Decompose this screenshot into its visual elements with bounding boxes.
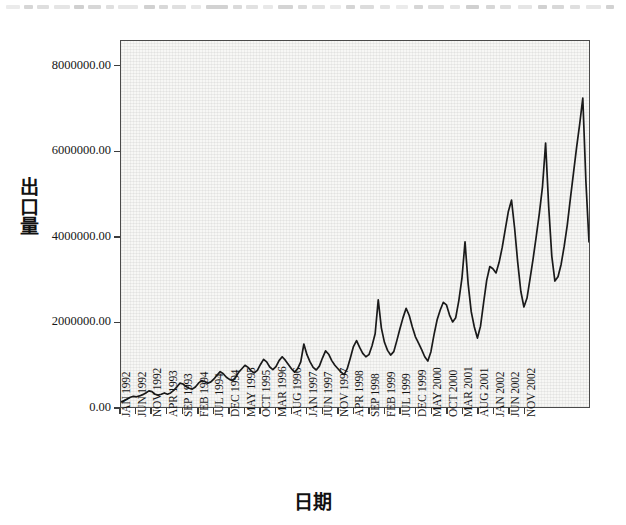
x-tick-label: JUL 1999 xyxy=(400,373,412,417)
y-tick-label: 6000000.00 xyxy=(52,143,111,158)
clipped-text-fragment xyxy=(466,5,479,9)
clipped-text-fragment xyxy=(606,5,614,9)
scan-artifact-strip xyxy=(0,0,626,10)
clipped-text-fragment xyxy=(6,5,20,9)
x-tick-label: MAR 2001 xyxy=(462,367,474,417)
x-tick-label: JUN 2002 xyxy=(509,372,521,417)
x-tick-label: OCT 2000 xyxy=(447,370,459,417)
clipped-text-fragment xyxy=(380,5,390,9)
clipped-text-fragment xyxy=(312,5,325,9)
clipped-text-fragment xyxy=(330,5,341,9)
x-tick-label: JAN 1997 xyxy=(307,372,319,417)
x-tick-label: JAN 1992 xyxy=(120,372,132,417)
plot-area xyxy=(120,40,590,408)
clipped-text-fragment xyxy=(74,5,84,9)
x-tick-label: FEB 1999 xyxy=(385,372,397,417)
y-tick-label: 2000000.00 xyxy=(52,314,111,329)
clipped-text-fragment xyxy=(37,5,49,9)
x-tick-label: MAY 1995 xyxy=(245,367,257,417)
clipped-text-fragment xyxy=(88,5,101,9)
clipped-text-fragment xyxy=(278,5,293,9)
x-tick-label: SEP 1998 xyxy=(369,373,381,417)
clipped-text-fragment xyxy=(24,5,33,9)
x-tick-label: JUL 1994 xyxy=(213,373,225,417)
clipped-text-fragment xyxy=(246,5,258,9)
clipped-text-fragment xyxy=(500,5,511,9)
y-tick-label: 8000000.00 xyxy=(52,58,111,73)
clipped-text-fragment xyxy=(450,5,460,9)
clipped-text-fragment xyxy=(172,5,186,9)
clipped-text-fragment xyxy=(298,5,307,9)
clipped-text-fragment xyxy=(263,5,273,9)
x-tick-label: SEP 1993 xyxy=(182,373,194,417)
x-tick-label: JAN 2002 xyxy=(494,372,506,417)
clipped-text-fragment xyxy=(159,5,168,9)
x-tick-label: DEC 1994 xyxy=(229,370,241,417)
x-tick-label: AUG 2001 xyxy=(478,368,490,417)
clipped-text-fragment xyxy=(586,5,601,9)
x-tick-label: MAR 1996 xyxy=(276,367,288,417)
clipped-text-fragment xyxy=(191,5,201,9)
x-tick-label: APR 1993 xyxy=(167,370,179,417)
clipped-text-fragment xyxy=(428,5,444,9)
x-tick-label: JUN 1992 xyxy=(136,372,148,417)
clipped-text-fragment xyxy=(414,5,423,9)
clipped-text-fragment xyxy=(396,5,408,9)
clipped-text-fragment xyxy=(360,5,374,9)
y-axis-title: 出口量 xyxy=(14,178,44,237)
clipped-text-fragment xyxy=(233,5,242,9)
clipped-text-fragment xyxy=(144,5,155,9)
clipped-text-fragment xyxy=(570,5,580,9)
x-tick-label: MAY 2000 xyxy=(431,367,443,417)
clipped-text-fragment xyxy=(346,5,355,9)
x-tick-label: FEB 1994 xyxy=(198,372,210,417)
clipped-text-fragment xyxy=(486,5,495,9)
x-tick-label: NOV 1997 xyxy=(338,368,350,417)
x-tick-label: OCT 1995 xyxy=(260,370,272,417)
clipped-text-fragment xyxy=(518,5,532,9)
clipped-text-fragment xyxy=(206,5,228,9)
x-tick-label: NOV 2002 xyxy=(525,368,537,417)
x-tick-label: NOV 1992 xyxy=(151,368,163,417)
x-tick-label: AUG 1996 xyxy=(291,368,303,417)
y-tick-label: 4000000.00 xyxy=(52,229,111,244)
clipped-text-fragment xyxy=(54,5,70,9)
x-tick-label: DEC 1999 xyxy=(416,370,428,417)
x-tick-label: JUN 1997 xyxy=(322,372,334,417)
x-tick-label: APR 1998 xyxy=(353,370,365,417)
clipped-text-fragment xyxy=(538,5,547,9)
series-line-export-volume xyxy=(121,41,589,407)
y-tick-label: 0.00 xyxy=(89,400,111,415)
clipped-text-fragment xyxy=(552,5,564,9)
x-axis-title: 日期 xyxy=(0,487,626,514)
clipped-text-fragment xyxy=(106,5,114,9)
clipped-text-fragment xyxy=(118,5,138,9)
chart-figure: 出口量 8000000.006000000.004000000.00200000… xyxy=(0,0,626,525)
